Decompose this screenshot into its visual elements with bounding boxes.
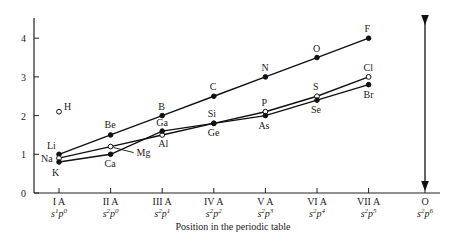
x-tick-config-label: s2p6 xyxy=(417,207,433,219)
element-label-ca: Ca xyxy=(105,158,117,169)
x-tick-group-label: O xyxy=(421,196,428,207)
element-label-as: As xyxy=(258,120,269,131)
element-label-na: Na xyxy=(41,153,53,164)
y-tick-label: 0 xyxy=(21,188,26,199)
y-tick-label: 2 xyxy=(21,111,26,122)
element-label-al: Al xyxy=(158,138,168,149)
data-point-be xyxy=(108,133,113,138)
x-tick-group-label: V A xyxy=(257,196,274,207)
y-tick-label: 3 xyxy=(21,72,26,83)
element-label-mg: Mg xyxy=(137,147,151,158)
element-label-n: N xyxy=(261,62,268,73)
x-tick-group-label: IV A xyxy=(204,196,224,207)
element-label-si: Si xyxy=(208,108,217,119)
element-label-se: Se xyxy=(311,104,322,115)
element-label-p: P xyxy=(261,97,267,108)
x-tick-config-label: s2p4 xyxy=(309,207,325,219)
data-point-f xyxy=(366,36,371,41)
data-point-h xyxy=(57,109,62,114)
element-label-li: Li xyxy=(47,140,56,151)
point-labels: LiBeBCNOFNaMgAlSiPSClKCaGaGeAsSeBrH xyxy=(41,23,374,178)
data-point-mg xyxy=(108,144,113,149)
x-tick-group-label: I A xyxy=(53,196,66,207)
element-label-ge: Ge xyxy=(208,127,220,138)
y-tick-label: 4 xyxy=(21,33,26,44)
element-label-be: Be xyxy=(105,119,117,130)
x-tick-config-label: s2p5 xyxy=(361,207,377,219)
data-point-as xyxy=(263,113,268,118)
element-label-br: Br xyxy=(364,89,375,100)
x-tick-group-label: VI A xyxy=(307,196,328,207)
element-label-o: O xyxy=(313,43,320,54)
element-label-cl: Cl xyxy=(364,62,374,73)
element-label-h: H xyxy=(64,101,71,112)
x-tick-group-label: VII A xyxy=(357,196,381,207)
data-point-o xyxy=(315,55,320,60)
element-label-c: C xyxy=(210,81,217,92)
data-point-ca xyxy=(108,152,113,157)
element-label-f: F xyxy=(365,23,371,34)
data-point-se xyxy=(315,98,320,103)
x-axis-title: Position in the periodic table xyxy=(176,221,292,232)
data-point-c xyxy=(212,94,217,99)
x-tick-config-label: s2p0 xyxy=(103,207,119,219)
axes: 01234I As1p0II As2p0III As2p1IV As2p2V A… xyxy=(21,18,440,219)
x-tick-config-label: s2p1 xyxy=(154,207,170,219)
y-tick-label: 1 xyxy=(21,149,26,160)
series-lines xyxy=(59,38,369,162)
element-label-k: K xyxy=(52,167,60,178)
x-tick-group-label: III A xyxy=(153,196,173,207)
x-tick-config-label: s1p0 xyxy=(51,207,67,219)
data-point-n xyxy=(263,75,268,80)
data-point-ge xyxy=(212,121,217,126)
x-tick-group-label: II A xyxy=(103,196,120,207)
data-point-cl xyxy=(366,75,371,80)
x-tick-config-label: s2p2 xyxy=(206,207,222,219)
electronegativity-chart: 01234I As1p0II As2p0III As2p1IV As2p2V A… xyxy=(0,0,462,241)
x-tick-config-label: s2p3 xyxy=(257,207,273,219)
data-point-k xyxy=(57,160,62,165)
element-label-b: B xyxy=(158,101,165,112)
element-label-ga: Ga xyxy=(156,117,168,128)
data-point-br xyxy=(366,82,371,87)
data-point-ga xyxy=(160,129,165,134)
element-label-s: S xyxy=(313,81,319,92)
